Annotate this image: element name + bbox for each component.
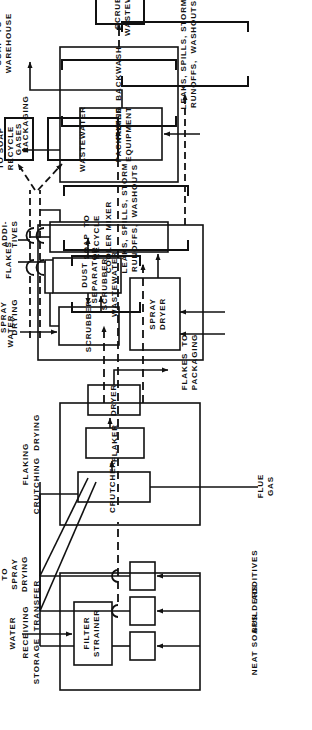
unit-box-tank-neat-soaps	[130, 632, 155, 660]
stream-label-flue-gas: FLUE GAS	[256, 456, 276, 516]
unit-box-tank-builders	[130, 597, 155, 625]
waste-label-leaks-flaking: LEAKS, SPILLS, STORM RUNOFFS, WASHOUTS	[120, 148, 140, 288]
arrow-packaged-soap	[30, 62, 122, 108]
unit-label-spray-dryer: SPRAY DRYER	[148, 279, 168, 349]
section-label-flaking: FLAKING CRUTCHING DRYING	[20, 394, 42, 534]
dashed-to-wastewater	[38, 164, 62, 190]
stream-label-packaged-soap: PACKAGED SOAP TO WAREHOUSE	[0, 2, 14, 84]
waste-label-scrubber-wastewater-flaking: SCRUBBER WASTEWATER	[100, 249, 120, 319]
stream-label-water-spray: WATER	[6, 298, 16, 364]
diagram-rotation-wrapper: RECEIVING STORAGE TRANSFER FLAKING CRUTC…	[0, 0, 312, 730]
stream-label-additives-mixer: ADDI- TIVES	[0, 208, 20, 260]
section-box-flaking	[60, 403, 200, 525]
line-additives-diagonal	[40, 478, 88, 576]
waste-label-leaks-spray: LEAKS, SPILLS, STORM RUNOFFS, WASHOUTS	[179, 0, 199, 124]
unit-box-tank-additives	[130, 562, 155, 590]
stream-label-scrap-to-soap-recycle: SCRAP TO SOAP RECYCLE	[0, 114, 16, 182]
stream-label-soap-to-recycle: SOAP TO RECYCLE	[82, 202, 102, 272]
stream-label-additives-feed: ADDITIVES	[250, 542, 260, 608]
line-neat-soap-to-crutcher	[40, 494, 78, 646]
diagram-linework	[0, 0, 312, 730]
stream-label-water-receiving: WATER	[8, 600, 18, 666]
waste-label-filter-backwash: FILTER BACKWASH	[114, 38, 124, 148]
waste-label-scrubber-wastewater-packaging: SCRUBBER WASTEWATER	[113, 0, 133, 38]
stream-label-to-spray-drying: TO SPRAY DRYING	[0, 544, 30, 604]
diagram-page: RECEIVING STORAGE TRANSFER FLAKING CRUTC…	[0, 0, 312, 730]
unit-label-filter-strainer: FILTER STRAINER	[82, 598, 102, 668]
unit-label-dryer: DRYER	[109, 365, 119, 435]
line-builders-diagonal	[40, 482, 96, 611]
arrow-flakes-to-packaging	[114, 370, 168, 385]
waste-label-wastewater: WASTEWATER	[78, 104, 88, 174]
diagram-canvas: RECEIVING STORAGE TRANSFER FLAKING CRUTC…	[0, 0, 312, 730]
stream-label-flakes-to-packaging: FLAKES TO PACKAGING	[180, 317, 200, 407]
